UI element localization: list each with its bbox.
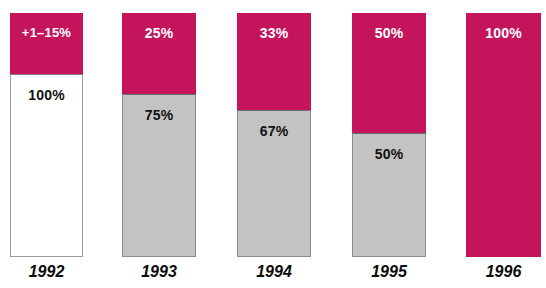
bar-segment-label-light-1993: 75% xyxy=(123,108,195,122)
bar-group-1996: 100% xyxy=(466,13,541,257)
bar-group-1993: 25% 75% xyxy=(122,13,196,257)
bar-group-1992: +1–15% 100% xyxy=(10,13,83,257)
bar-segment-magenta-1994: 33% xyxy=(237,13,311,110)
bar-segment-label-light-1995: 50% xyxy=(353,147,425,161)
bar-segment-label-magenta-1992: +1–15% xyxy=(10,26,83,39)
axis-label-1995: 1995 xyxy=(352,264,426,280)
axis-label-1994: 1994 xyxy=(237,264,311,280)
bar-segment-label-light-1994: 67% xyxy=(238,124,310,138)
bar-group-1995: 50% 50% xyxy=(352,13,426,257)
bar-segment-magenta-1996: 100% xyxy=(466,13,541,257)
bar-segment-light-1994: 67% xyxy=(237,110,311,257)
bar-segment-magenta-1993: 25% xyxy=(122,13,196,94)
bar-segment-light-1993: 75% xyxy=(122,94,196,257)
axis-label-1993: 1993 xyxy=(122,264,196,280)
bar-segment-label-magenta-1994: 33% xyxy=(237,26,311,40)
bar-segment-light-1992: 100% xyxy=(10,74,83,257)
bar-segment-label-light-1992: 100% xyxy=(11,88,82,102)
bar-segment-label-magenta-1995: 50% xyxy=(352,26,426,40)
stacked-bar-chart: +1–15% 100% 1992 25% 75% 1993 33% 67% 19… xyxy=(0,0,546,288)
axis-label-1996: 1996 xyxy=(466,264,541,280)
axis-label-1992: 1992 xyxy=(10,264,83,280)
bar-segment-label-magenta-1996: 100% xyxy=(466,26,541,40)
bar-group-1994: 33% 67% xyxy=(237,13,311,257)
bar-segment-magenta-1992: +1–15% xyxy=(10,13,83,74)
bar-segment-magenta-1995: 50% xyxy=(352,13,426,133)
bar-segment-label-magenta-1993: 25% xyxy=(122,26,196,40)
bar-segment-light-1995: 50% xyxy=(352,133,426,257)
